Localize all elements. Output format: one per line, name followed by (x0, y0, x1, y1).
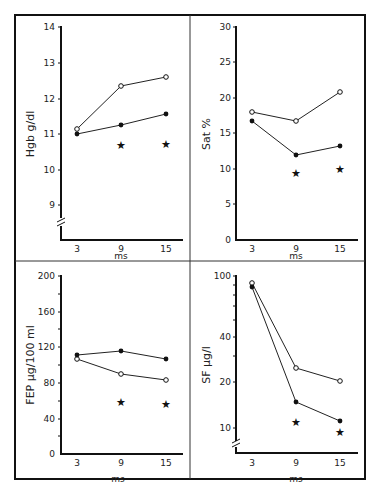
svg-text:0: 0 (49, 449, 55, 459)
panel-sat: 30 25 20 15 10 5 0 3 9 15 ms Sat % ★ ★ (200, 22, 358, 261)
x-ticks: 3 9 15 ms (74, 458, 172, 484)
y-ticks: 200 160 120 80 40 0 (38, 271, 61, 459)
series-open (77, 359, 166, 380)
panel-fep: 200 160 120 80 40 0 3 9 15 ms FEP µg/100… (24, 271, 183, 484)
significance-star-icon: ★ (335, 163, 345, 176)
axes (61, 26, 183, 240)
svg-text:15: 15 (220, 128, 231, 138)
svg-text:13: 13 (44, 58, 55, 68)
series-open (252, 92, 340, 121)
y-axis-label: Hgb g/dl (24, 111, 37, 157)
svg-text:11: 11 (44, 129, 55, 139)
x-ticks: 3 9 15 ms (249, 458, 346, 484)
svg-text:15: 15 (160, 458, 171, 468)
svg-text:12: 12 (44, 94, 55, 104)
svg-text:120: 120 (38, 342, 55, 352)
svg-text:10: 10 (220, 164, 232, 174)
svg-text:10: 10 (44, 165, 56, 175)
y-axis-label: SF µg/l (200, 346, 213, 384)
y-axis-label: FEP µg/100 ml (24, 325, 37, 404)
significance-star-icon: ★ (161, 398, 171, 411)
svg-text:80: 80 (44, 378, 56, 388)
x-ticks: 3 9 15 ms (74, 244, 172, 261)
panel-sf: 100 40 20 10 3 9 15 ms SF µg/l ★ ★ (200, 271, 358, 484)
svg-text:3: 3 (74, 458, 80, 468)
significance-star-icon: ★ (116, 139, 126, 152)
svg-text:14: 14 (44, 22, 56, 32)
x-axis-label: ms (289, 251, 303, 261)
svg-text:15: 15 (160, 244, 171, 254)
axis-break-icon (57, 218, 65, 226)
svg-text:9: 9 (293, 458, 299, 468)
figure: 14 13 12 11 10 9 3 9 15 ms Hgb g/dl ★ ★ … (0, 0, 380, 503)
x-axis-label: ms (289, 474, 303, 484)
svg-text:100: 100 (214, 271, 231, 281)
x-axis-label: ms (114, 251, 128, 261)
svg-text:3: 3 (74, 244, 80, 254)
svg-text:3: 3 (249, 458, 255, 468)
y-ticks: 100 40 20 10 (214, 271, 236, 433)
panel-hgb: 14 13 12 11 10 9 3 9 15 ms Hgb g/dl ★ ★ (24, 22, 183, 261)
axes (236, 26, 358, 240)
significance-star-icon: ★ (335, 426, 345, 439)
significance-star-icon: ★ (291, 416, 301, 429)
axes (61, 275, 183, 454)
svg-text:9: 9 (49, 200, 55, 210)
y-axis-label: Sat % (200, 118, 213, 150)
x-ticks: 3 9 15 ms (249, 244, 346, 261)
svg-text:30: 30 (220, 22, 232, 32)
y-ticks: 30 25 20 15 10 5 0 (220, 22, 236, 245)
svg-text:10: 10 (220, 423, 232, 433)
svg-text:40: 40 (220, 332, 232, 342)
svg-text:0: 0 (225, 235, 231, 245)
svg-text:15: 15 (334, 458, 345, 468)
svg-text:3: 3 (249, 244, 255, 254)
svg-text:40: 40 (44, 414, 56, 424)
svg-text:5: 5 (225, 199, 231, 209)
series-filled (252, 121, 340, 155)
svg-text:9: 9 (118, 458, 124, 468)
y-ticks: 14 13 12 11 10 9 (44, 22, 61, 210)
svg-text:20: 20 (220, 377, 232, 387)
significance-star-icon: ★ (291, 167, 301, 180)
svg-text:20: 20 (220, 93, 232, 103)
svg-text:200: 200 (38, 271, 55, 281)
svg-text:15: 15 (334, 244, 345, 254)
svg-text:25: 25 (220, 57, 231, 67)
x-axis-label: ms (111, 474, 125, 484)
significance-star-icon: ★ (116, 396, 126, 409)
svg-text:160: 160 (38, 307, 55, 317)
significance-star-icon: ★ (161, 138, 171, 151)
